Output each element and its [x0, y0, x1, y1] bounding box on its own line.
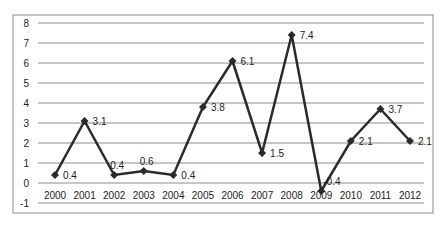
x-tick-label: 2002	[103, 190, 126, 201]
data-marker	[258, 149, 266, 157]
data-label: 3.7	[388, 104, 402, 115]
x-axis-ticks: 2000200120022003200420052006200720082009…	[44, 190, 422, 201]
data-label: 2.1	[359, 136, 373, 147]
y-tick-label: 5	[23, 78, 29, 89]
x-tick-label: 2012	[399, 190, 422, 201]
y-tick-label: 2	[23, 138, 29, 149]
y-tick-label: 7	[23, 38, 29, 49]
data-label: 0.4	[181, 170, 195, 181]
data-label: 3.1	[93, 116, 107, 127]
y-axis-ticks: -1012345678	[20, 18, 29, 209]
data-marker	[169, 171, 177, 179]
x-tick-label: 2004	[162, 190, 185, 201]
data-label: 3.8	[211, 102, 225, 113]
data-marker	[140, 167, 148, 175]
x-tick-label: 2011	[370, 190, 392, 201]
gridlines	[38, 23, 424, 203]
x-tick-label: 2003	[133, 190, 156, 201]
data-label: 0.4	[63, 170, 77, 181]
y-tick-label: 1	[23, 158, 29, 169]
data-label: -0.4	[323, 176, 341, 187]
y-tick-label: 3	[23, 118, 29, 129]
x-tick-label: 2000	[44, 190, 67, 201]
data-markers	[51, 31, 414, 195]
x-tick-label: 2008	[281, 190, 304, 201]
x-tick-label: 2007	[251, 190, 274, 201]
data-label: 7.4	[300, 30, 314, 41]
x-tick-label: 2005	[192, 190, 215, 201]
y-tick-label: -1	[20, 198, 29, 209]
data-label: 1.5	[270, 148, 284, 159]
x-tick-label: 2006	[221, 190, 244, 201]
data-label: 0.6	[140, 156, 154, 167]
y-tick-label: 6	[23, 58, 29, 69]
x-tick-label: 2010	[340, 190, 363, 201]
data-label: 0.4	[110, 160, 124, 171]
data-label: 2.1	[418, 136, 432, 147]
y-tick-label: 4	[23, 98, 29, 109]
data-marker	[288, 31, 296, 39]
y-tick-label: 0	[23, 178, 29, 189]
data-label: 6.1	[241, 56, 255, 67]
y-tick-label: 8	[23, 18, 29, 29]
x-tick-label: 2001	[73, 190, 96, 201]
line-chart: -1012345678 2000200120022003200420052006…	[0, 0, 447, 227]
